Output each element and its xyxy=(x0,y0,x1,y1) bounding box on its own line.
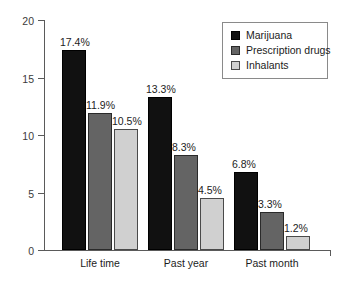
bar xyxy=(286,236,310,250)
bar-value-label: 3.3% xyxy=(258,199,282,210)
bar-value-label: 13.3% xyxy=(146,84,176,95)
legend-label-prescription-drugs: Prescription drugs xyxy=(246,45,331,56)
x-axis-category-label: Past year xyxy=(148,258,224,269)
bar-chart: 05101520 17.4%11.9%10.5%13.3%8.3%4.5%6.8… xyxy=(0,0,341,287)
x-axis-line xyxy=(44,250,331,251)
bar xyxy=(88,113,112,250)
bar xyxy=(260,212,284,250)
y-axis-tick-label: 20 xyxy=(8,16,34,27)
legend-swatch-icon-inhalants xyxy=(231,61,240,70)
legend-item-marijuana: Marijuana xyxy=(231,29,320,42)
bar-value-label: 8.3% xyxy=(172,142,196,153)
y-axis-tick-label: 10 xyxy=(8,131,34,142)
legend-swatch-icon-marijuana xyxy=(231,31,240,40)
bar xyxy=(114,129,138,250)
y-axis-tick-label: 15 xyxy=(8,74,34,85)
bar xyxy=(200,198,224,250)
legend: Marijuana Prescription drugs Inhalants xyxy=(222,22,328,79)
bar-value-label: 6.8% xyxy=(232,159,256,170)
bar-value-label: 1.2% xyxy=(284,223,308,234)
bar xyxy=(234,172,258,250)
legend-label-marijuana: Marijuana xyxy=(246,30,292,41)
legend-swatch-icon-prescription-drugs xyxy=(231,46,240,55)
bar-value-label: 11.9% xyxy=(86,100,115,111)
y-axis-tick-label: 5 xyxy=(8,189,34,200)
bar-value-label: 17.4% xyxy=(60,37,90,48)
bar-value-label: 10.5% xyxy=(112,116,142,127)
bar xyxy=(174,155,198,250)
x-axis-category-label: Past month xyxy=(234,258,310,269)
bar xyxy=(148,97,172,250)
x-axis-end-tick xyxy=(330,250,331,256)
y-axis-tick-label: 0 xyxy=(8,246,34,257)
legend-label-inhalants: Inhalants xyxy=(246,60,289,71)
bar xyxy=(62,50,86,250)
legend-item-prescription-drugs: Prescription drugs xyxy=(231,44,320,57)
x-axis-category-label: Life time xyxy=(62,258,138,269)
bar-value-label: 4.5% xyxy=(198,185,222,196)
legend-item-inhalants: Inhalants xyxy=(231,59,320,72)
y-axis-tick xyxy=(38,250,44,251)
